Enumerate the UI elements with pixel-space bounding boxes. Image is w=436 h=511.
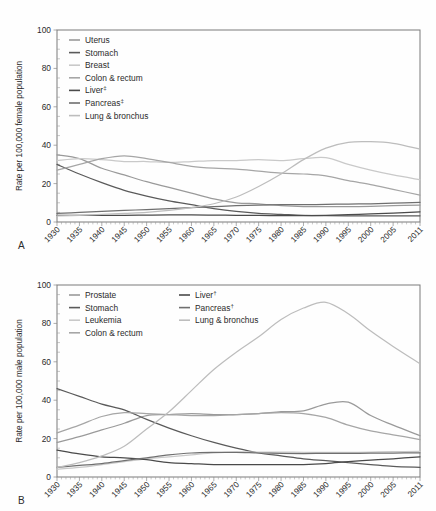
x-tick-label: 1995 (334, 225, 354, 245)
series-line-breast (57, 157, 420, 179)
x-tick-label: 1955 (155, 480, 175, 500)
x-tick-label: 2011 (406, 225, 425, 244)
x-tick-label: 1975 (244, 480, 264, 500)
x-tick-label: 1945 (110, 480, 130, 500)
x-tick-label: 1935 (65, 225, 85, 245)
legend-label: Leukemia (85, 315, 122, 325)
y-tick-label: 20 (42, 179, 52, 189)
x-tick-label: 1950 (132, 480, 152, 500)
y-tick-label: 60 (42, 102, 52, 112)
chart-b: 0204060801001930193519401945195019551960… (0, 255, 436, 510)
x-tick-label: 1930 (43, 480, 63, 500)
x-tick-label: 1960 (177, 480, 197, 500)
series-line-colon-rectum (57, 413, 420, 440)
x-tick-label: 1945 (110, 225, 130, 245)
x-tick-label: 1965 (200, 225, 220, 245)
x-tick-label: 1985 (289, 480, 309, 500)
y-tick-label: 40 (42, 140, 52, 150)
x-tick-label: 1955 (155, 225, 175, 245)
y-axis-label: Rate per 100,000 female population (15, 60, 24, 191)
legend-label: Stomach (85, 303, 118, 313)
x-tick-label: 1975 (244, 225, 264, 245)
y-tick-label: 60 (42, 357, 52, 367)
series-line-stomach (57, 389, 420, 468)
x-tick-label: 1995 (334, 480, 354, 500)
legend-label: Lung & bronchus (195, 315, 258, 325)
x-tick-label: 1960 (177, 225, 197, 245)
series-line-prostate (57, 401, 420, 442)
series-line-colon-rectum (57, 156, 420, 195)
legend-label: Stomach (85, 48, 118, 58)
panel-letter: B (18, 495, 25, 506)
x-tick-label: 2000 (356, 225, 376, 245)
y-tick-label: 0 (46, 217, 51, 227)
x-tick-label: 1970 (222, 480, 242, 500)
x-tick-label: 1970 (222, 225, 242, 245)
x-tick-label: 1980 (267, 225, 287, 245)
x-tick-label: 1950 (132, 225, 152, 245)
x-tick-label: 1940 (87, 480, 107, 500)
y-tick-label: 40 (42, 395, 52, 405)
x-tick-label: 1930 (43, 225, 63, 245)
legend-label: Colon & rectum (85, 328, 143, 338)
x-tick-label: 1935 (65, 480, 85, 500)
panel-a: 0204060801001930193519401945195019551960… (0, 0, 436, 255)
legend-label: Pancreas† (195, 302, 234, 313)
legend-label: Uterus (85, 35, 110, 45)
x-tick-label: 2011 (406, 480, 425, 499)
y-axis-label: Rate per 100,000 male population (15, 319, 24, 443)
legend-label: Prostate (85, 290, 117, 300)
y-tick-label: 80 (42, 63, 52, 73)
y-tick-label: 100 (37, 25, 51, 35)
series-line-lung-bronchus (57, 142, 420, 216)
plot-frame (57, 30, 420, 222)
x-tick-label: 1985 (289, 225, 309, 245)
x-tick-label: 1980 (267, 480, 287, 500)
legend-label: Liver‡ (85, 84, 107, 95)
legend-label: Breast (85, 60, 110, 70)
legend-label: Pancreas‡ (85, 97, 124, 108)
x-tick-label: 1940 (87, 225, 107, 245)
x-tick-label: 2005 (379, 480, 399, 500)
y-tick-label: 100 (37, 280, 51, 290)
y-tick-label: 20 (42, 434, 52, 444)
x-tick-label: 1990 (312, 480, 332, 500)
x-tick-label: 1965 (200, 480, 220, 500)
panel-letter: A (18, 240, 25, 251)
y-tick-label: 80 (42, 318, 52, 328)
x-tick-label: 2000 (356, 480, 376, 500)
legend-label: Lung & bronchus (85, 111, 148, 121)
chart-a: 0204060801001930193519401945195019551960… (0, 0, 436, 255)
x-tick-label: 2005 (379, 225, 399, 245)
x-tick-label: 1990 (312, 225, 332, 245)
y-tick-label: 0 (46, 472, 51, 482)
series-line-stomach (57, 164, 420, 215)
legend-label: Colon & rectum (85, 73, 143, 83)
series-line-uterus (57, 155, 420, 207)
panel-b: 0204060801001930193519401945195019551960… (0, 255, 436, 510)
legend-label: Liver† (195, 289, 217, 300)
